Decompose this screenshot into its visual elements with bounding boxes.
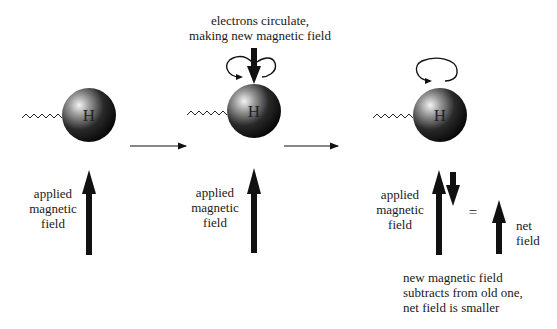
bond-wavy-line xyxy=(373,114,413,118)
label-line: magnetic xyxy=(374,202,426,217)
caption-line: new magnetic field xyxy=(403,270,553,285)
label-line: field xyxy=(188,215,242,230)
applied-field-label: applied magnetic field xyxy=(26,186,80,231)
label-line: applied xyxy=(26,186,80,201)
electrons-circulate-caption: electrons circulate, making new magnetic… xyxy=(180,13,340,43)
label-line: field xyxy=(26,216,80,231)
label-line: field xyxy=(516,233,556,248)
bond-wavy-line xyxy=(187,111,227,115)
net-field-label: net field xyxy=(516,218,556,248)
net-field-arrow-icon xyxy=(492,200,506,254)
label-line: field xyxy=(374,217,426,232)
caption-line: making new magnetic field xyxy=(180,28,340,43)
induced-field-arrow-icon xyxy=(446,172,460,206)
atom-label: H xyxy=(434,106,446,125)
applied-field-arrow-icon xyxy=(82,170,96,255)
caption-line: electrons circulate, xyxy=(180,13,340,28)
net-field-smaller-caption: new magnetic field subtracts from old on… xyxy=(403,270,553,315)
electron-circulation-icon xyxy=(416,58,457,81)
equals-sign: = xyxy=(466,205,480,220)
label-line: magnetic xyxy=(26,201,80,216)
atom-label: H xyxy=(83,106,95,125)
atom-label: H xyxy=(248,102,260,121)
caption-line: net field is smaller xyxy=(403,300,553,315)
label-line: applied xyxy=(374,187,426,202)
applied-field-label: applied magnetic field xyxy=(374,187,426,232)
induced-field-arrow-icon xyxy=(247,48,261,84)
caption-line: subtracts from old one, xyxy=(403,285,553,300)
applied-field-label: applied magnetic field xyxy=(188,185,242,230)
label-line: magnetic xyxy=(188,200,242,215)
label-line: applied xyxy=(188,185,242,200)
applied-field-arrow-icon xyxy=(247,168,261,253)
label-line: net xyxy=(516,218,556,233)
applied-field-arrow-icon xyxy=(432,170,446,255)
bond-wavy-line xyxy=(22,114,62,118)
